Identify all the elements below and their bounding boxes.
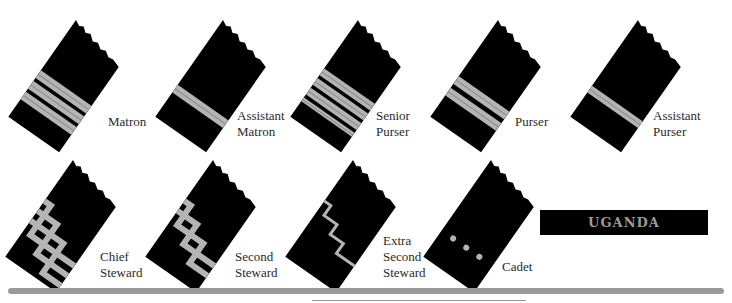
badge-label-purser: Purser <box>515 114 548 130</box>
divider-rule <box>8 288 724 294</box>
uganda-nameplate: UGANDA <box>540 210 708 235</box>
badge-label-matron: Matron <box>108 114 146 130</box>
bottom-line <box>312 300 526 301</box>
badge-label-senior-purser: Senior Purser <box>376 108 410 140</box>
badge-label-extra-second-steward: Extra Second Steward <box>383 233 426 281</box>
badge-label-chief-steward: Chief Steward <box>100 249 143 281</box>
nameplate-text: UGANDA <box>588 215 660 230</box>
badge-label-assistant-purser: Assistant Purser <box>653 108 701 140</box>
badge-label-cadet: Cadet <box>502 259 532 275</box>
shoulder-board-icon <box>440 18 570 148</box>
badge-label-assistant-matron: Assistant Matron <box>237 108 285 140</box>
shoulder-board-icon <box>300 18 430 148</box>
badge-label-second-steward: Second Steward <box>235 249 278 281</box>
